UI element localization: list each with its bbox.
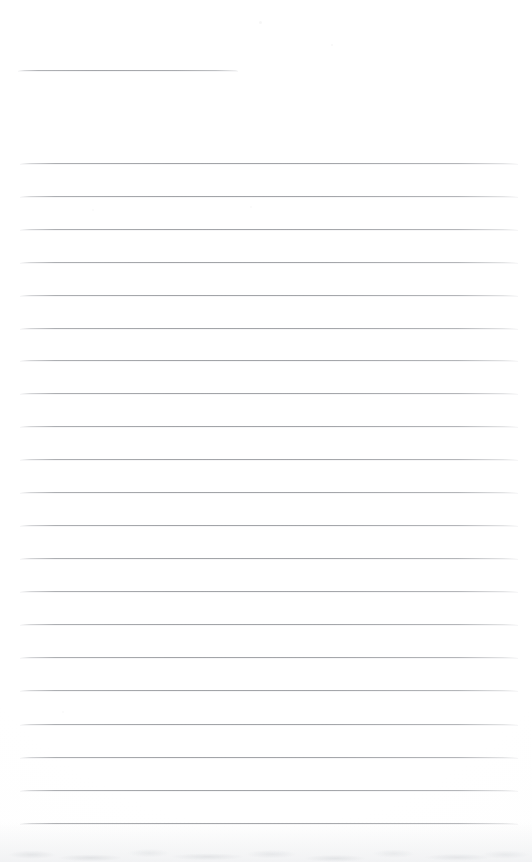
ruled-line xyxy=(20,196,518,197)
scan-speck xyxy=(331,44,333,46)
ruled-line xyxy=(20,558,518,559)
header-rule xyxy=(18,70,238,71)
ruled-line xyxy=(20,757,518,758)
scan-speck xyxy=(62,711,64,713)
ruled-line xyxy=(20,229,518,230)
ruled-line xyxy=(20,426,518,427)
scan-speck xyxy=(250,206,252,208)
scan-edge-texture xyxy=(0,822,532,862)
ruled-line xyxy=(20,459,518,460)
ruled-line xyxy=(20,724,518,725)
paper-surface xyxy=(0,0,532,862)
ruled-line xyxy=(20,823,518,824)
ruled-line xyxy=(20,790,518,791)
scanned-page xyxy=(0,0,532,862)
ruled-line xyxy=(20,393,518,394)
ruled-line xyxy=(20,328,518,329)
ruled-line xyxy=(20,262,518,263)
ruled-line xyxy=(20,295,518,296)
ruled-line xyxy=(20,525,518,526)
scan-speck xyxy=(92,209,94,211)
ruled-line xyxy=(20,657,518,658)
ruled-line xyxy=(20,624,518,625)
ruled-line xyxy=(20,591,518,592)
scan-speck xyxy=(259,21,262,24)
ruled-line xyxy=(20,492,518,493)
ruled-line xyxy=(20,690,518,691)
ruled-line xyxy=(20,360,518,361)
ruled-line xyxy=(20,163,518,164)
